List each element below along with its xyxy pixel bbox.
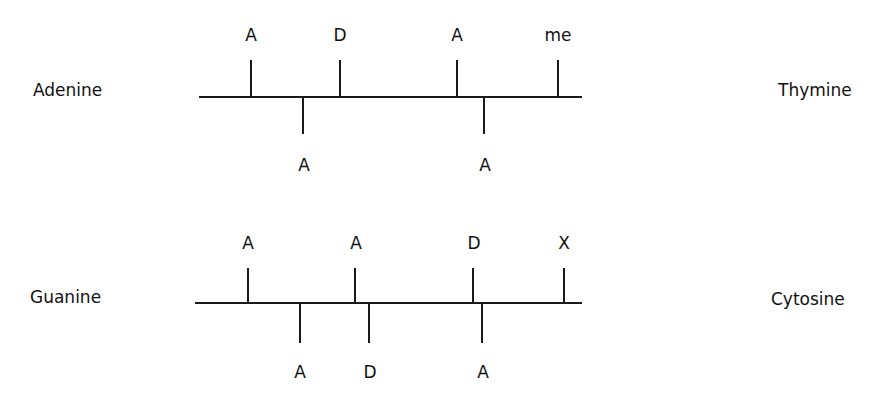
site-label-top: A [350,235,362,252]
site-label-top: me [544,27,571,44]
site-label-bottom: D [363,364,376,381]
tick-up [250,60,252,97]
tick-down [299,303,301,343]
backbone-line [199,96,582,98]
site-label-bottom: A [298,157,310,174]
left-base-name: Guanine [30,289,101,306]
tick-up [563,268,565,303]
site-label-bottom: A [479,157,491,174]
tick-up [354,268,356,303]
site-label-bottom: A [477,364,489,381]
tick-up [472,268,474,303]
left-base-name: Adenine [33,82,102,99]
site-label-top: D [467,235,480,252]
tick-down [368,303,370,343]
tick-down [302,97,304,134]
site-label-top: A [245,27,257,44]
right-base-name: Cytosine [771,291,845,308]
tick-down [481,303,483,343]
site-label-bottom: A [294,364,306,381]
site-label-top: D [333,27,346,44]
tick-up [247,268,249,303]
tick-up [456,60,458,97]
right-base-name: Thymine [778,82,852,99]
tick-up [339,60,341,97]
tick-down [483,97,485,134]
tick-up [557,60,559,97]
site-label-top: X [558,235,570,252]
backbone-line [195,302,582,304]
site-label-top: A [242,235,254,252]
site-label-top: A [451,27,463,44]
